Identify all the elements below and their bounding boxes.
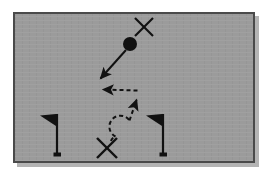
field-texture-overlay	[15, 14, 253, 161]
play-diagram-root	[0, 0, 265, 172]
play-field-panel	[13, 12, 255, 163]
